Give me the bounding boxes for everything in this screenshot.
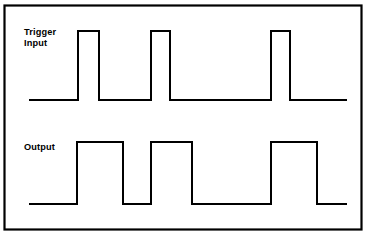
timing-diagram-figure: Trigger Input Output [0, 0, 370, 238]
output-label-line1: Output [24, 142, 55, 152]
timing-diagram-canvas: Trigger Input Output [0, 0, 370, 238]
trigger-input-label-line2: Input [24, 38, 47, 48]
trigger-input-label-line1: Trigger [24, 27, 56, 37]
